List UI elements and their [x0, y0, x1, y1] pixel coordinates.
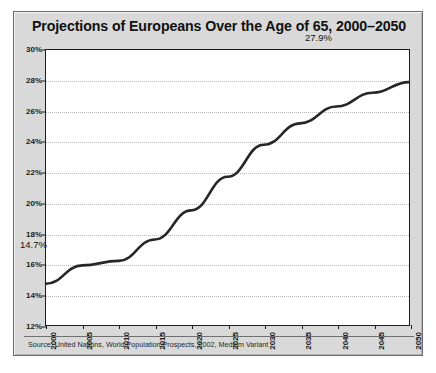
data-label-start: 14.7% [20, 240, 47, 250]
x-tick-mark [192, 325, 193, 329]
y-tick-label: 26% [26, 108, 42, 116]
y-tick-label: 28% [26, 77, 42, 85]
y-tick-label: 12% [26, 323, 42, 331]
plot-area: 12%14%16%18%20%22%24%26%28%30% 200020052… [46, 50, 409, 325]
x-tick-mark [375, 325, 376, 329]
source-divider [24, 336, 414, 337]
source-note: Source: United Nations, World Population… [28, 341, 268, 348]
plot-frame: 12%14%16%18%20%22%24%26%28%30% 200020052… [45, 49, 410, 326]
x-tick-label: 2040 [342, 332, 350, 350]
data-label-end: 27.9% [305, 33, 332, 43]
x-tick-mark [265, 325, 266, 329]
series-path [46, 82, 409, 284]
x-tick-label: 2050 [415, 332, 423, 350]
x-tick-mark [46, 325, 47, 329]
chart-figure: Projections of Europeans Over the Age of… [13, 11, 423, 356]
x-tick-mark [411, 325, 412, 329]
x-tick-label: 2045 [378, 332, 386, 350]
x-tick-mark [83, 325, 84, 329]
y-tick-label: 22% [26, 169, 42, 177]
y-tick-label: 18% [26, 231, 42, 239]
y-tick-label: 16% [26, 261, 42, 269]
x-tick-label: 2035 [305, 332, 313, 350]
x-tick-mark [156, 325, 157, 329]
x-tick-mark [338, 325, 339, 329]
y-tick-label: 24% [26, 138, 42, 146]
x-tick-mark [302, 325, 303, 329]
y-tick-label: 20% [26, 200, 42, 208]
y-tick-label: 14% [26, 292, 42, 300]
x-tick-label: 2030 [269, 332, 277, 350]
chart-title: Projections of Europeans Over the Age of… [14, 18, 424, 34]
series-line [46, 50, 409, 325]
x-tick-mark [119, 325, 120, 329]
y-tick-label: 30% [26, 46, 42, 54]
x-tick-mark [229, 325, 230, 329]
